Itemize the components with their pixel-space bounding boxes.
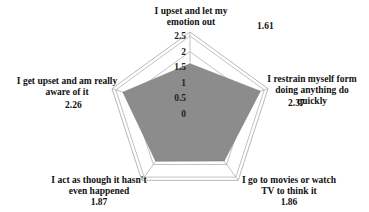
label-left: I get upset and am really aware of it bbox=[15, 76, 119, 98]
svg-text:0.5: 0.5 bbox=[174, 93, 186, 103]
value-left: 2.26 bbox=[65, 100, 82, 111]
svg-text:1.5: 1.5 bbox=[174, 62, 186, 72]
svg-text:2.5: 2.5 bbox=[174, 31, 186, 41]
label-top: I upset and let my emotion out bbox=[150, 6, 232, 28]
svg-text:2: 2 bbox=[181, 47, 186, 57]
svg-text:0: 0 bbox=[181, 109, 186, 119]
label-right: I restrain myself form doing anything do… bbox=[262, 74, 362, 107]
value-right: 2.37 bbox=[288, 98, 305, 109]
label-bottom-right: I go to movies or watch TV to think it 1… bbox=[235, 175, 343, 208]
value-top: 1.61 bbox=[257, 21, 274, 32]
data-area bbox=[123, 64, 260, 161]
svg-text:1: 1 bbox=[181, 78, 186, 88]
label-bottom-left: I act as though it hasn't even happened … bbox=[50, 175, 148, 208]
